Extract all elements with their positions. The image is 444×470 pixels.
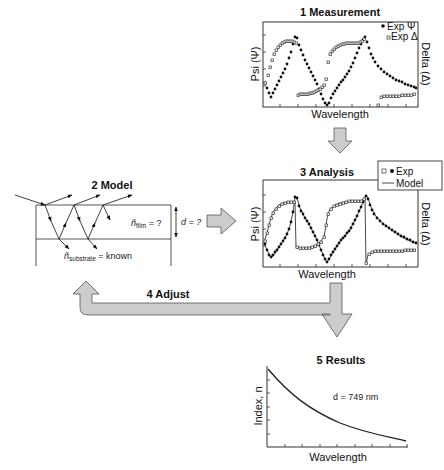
adjust-arrow-icon xyxy=(73,281,352,337)
down-arrow-icon xyxy=(328,128,352,153)
analysis-xlabel: Wavelength xyxy=(298,268,356,280)
measurement-ylabel-delta: Delta (Δ) xyxy=(420,42,432,85)
model-panel: 2 Model ñfilm = ? d = ? ñsubstrate = kno… xyxy=(15,179,201,266)
results-title: 5 Results xyxy=(317,354,366,366)
measurement-legend: Exp Ψ Exp Δ xyxy=(381,21,418,42)
open-square-marker-icon xyxy=(382,169,386,173)
measurement-panel: 1 Measurement xyxy=(249,6,432,120)
results-xlabel: Wavelength xyxy=(309,451,367,463)
thickness-label: d = ? xyxy=(181,217,201,227)
legend-exp-delta: Exp Δ xyxy=(391,31,418,42)
analysis-panel: 3 Analysis xyxy=(249,161,442,280)
results-panel: 5 Results d = 749 nm Wavelength Index, n xyxy=(252,354,408,463)
legend-exp: Exp xyxy=(396,166,414,177)
analysis-legend: Exp Model xyxy=(378,161,442,190)
ellipsometry-workflow-diagram: 1 Measurement xyxy=(0,0,444,470)
results-ylabel: Index, n xyxy=(252,386,264,425)
film-index-label: ñfilm = ? xyxy=(131,218,161,229)
thickness-result: d = 749 nm xyxy=(333,392,378,402)
model-title: 2 Model xyxy=(92,179,133,191)
analysis-plot-frame xyxy=(263,180,418,267)
filled-circle-marker-icon xyxy=(381,24,385,28)
adjust-label: 4 Adjust xyxy=(147,288,190,300)
right-arrow-icon xyxy=(207,208,236,234)
analysis-ylabel-psi: Psi (Ψ) xyxy=(249,207,261,242)
analysis-title: 3 Analysis xyxy=(300,166,354,178)
measurement-delta-series xyxy=(264,38,415,106)
light-ray-paths xyxy=(15,195,132,249)
measurement-xlabel: Wavelength xyxy=(311,108,369,120)
open-square-marker-icon xyxy=(387,36,390,39)
adjust-feedback-arrow: 4 Adjust xyxy=(73,281,352,337)
substrate-index-label: ñsubstrate = known xyxy=(64,251,132,262)
measurement-ylabel-psi: Psi (Ψ) xyxy=(249,47,261,82)
analysis-ylabel-delta: Delta (Δ) xyxy=(420,202,432,245)
results-axes xyxy=(267,366,408,447)
refractive-index-dispersion-curve xyxy=(268,369,406,441)
filled-circle-marker-icon xyxy=(390,169,394,173)
legend-model: Model xyxy=(396,178,423,189)
measurement-title: 1 Measurement xyxy=(300,6,380,18)
